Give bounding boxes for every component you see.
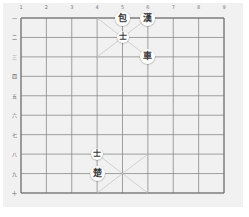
column-label: 6 xyxy=(143,3,153,11)
row-label: 二 xyxy=(9,33,19,41)
piece-general-han[interactable]: 漢 xyxy=(140,11,155,26)
piece-advisor[interactable]: 士 xyxy=(117,31,129,43)
column-label: 2 xyxy=(41,3,51,11)
piece-cannon[interactable]: 包 xyxy=(115,11,130,26)
row-label: 八 xyxy=(9,150,19,158)
row-label: 七 xyxy=(9,131,19,139)
row-label: 四 xyxy=(9,72,19,80)
row-label: 一 xyxy=(9,14,19,22)
column-label: 3 xyxy=(67,3,77,11)
row-label: 九 xyxy=(9,170,19,178)
piece-general-chu[interactable]: 楚 xyxy=(90,166,105,181)
column-label: 8 xyxy=(194,3,204,11)
xiangqi-board[interactable]: 123456789 一二三四五六七八九十 包漢士車士楚 xyxy=(0,0,249,217)
row-label: 五 xyxy=(9,92,19,100)
column-label: 1 xyxy=(16,3,26,11)
column-label: 5 xyxy=(118,3,128,11)
row-label: 十 xyxy=(9,189,19,197)
column-label: 7 xyxy=(168,3,178,11)
row-label: 六 xyxy=(9,111,19,119)
column-label: 4 xyxy=(92,3,102,11)
column-label: 9 xyxy=(219,3,229,11)
row-label: 三 xyxy=(9,53,19,61)
